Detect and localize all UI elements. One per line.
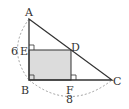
label-e: E [20,45,28,58]
shaded-rectangle-ebfd [29,50,71,80]
right-angle-mark-f [71,75,76,80]
measure-ab: 6 [11,45,18,58]
label-c: C [113,75,121,88]
label-b: B [21,84,29,97]
label-d: D [71,41,80,54]
label-a: A [24,6,34,19]
right-angle-mark-e [29,45,34,50]
geometry-diagram: A B C D E F 6 8 [0,0,129,109]
measure-bc: 8 [66,93,73,106]
